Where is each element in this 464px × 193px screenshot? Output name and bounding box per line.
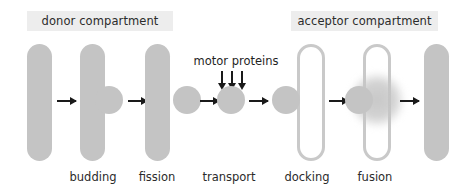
fusion-vesicle (345, 86, 373, 114)
process-arrow-docking (249, 100, 268, 102)
step-label-fusion: fusion (340, 170, 410, 184)
motor-protein-arrow-2 (231, 71, 233, 84)
step-label-transport: transport (186, 170, 272, 184)
motor-protein-arrow-3 (241, 71, 243, 84)
donor-compartment-band: donor compartment (27, 11, 173, 31)
step-label-budding: budding (53, 170, 133, 184)
donor-membrane-flat (27, 44, 52, 161)
motor-protein-arrow-1 (221, 71, 223, 84)
acceptor-compartment-band: acceptor compartment (291, 11, 438, 31)
fission-vesicle (173, 86, 201, 114)
step-label-docking: docking (267, 170, 347, 184)
process-arrow-fused (400, 100, 419, 102)
budding-vesicle (95, 86, 123, 114)
motor-proteins-label: motor proteins (186, 54, 286, 68)
docking-vesicle (272, 86, 300, 114)
vesicle-transport-diagram: donor compartment acceptor compartment m… (0, 0, 464, 193)
acceptor-compartment-label: acceptor compartment (297, 14, 431, 28)
process-arrow-budding (57, 100, 76, 102)
acceptor-membrane-fused (424, 44, 449, 161)
transport-vesicle (217, 86, 245, 114)
donor-compartment-label: donor compartment (42, 14, 159, 28)
step-label-fission: fission (122, 170, 192, 184)
acceptor-membrane-docking (297, 44, 325, 161)
donor-membrane-after-fission (145, 44, 170, 161)
